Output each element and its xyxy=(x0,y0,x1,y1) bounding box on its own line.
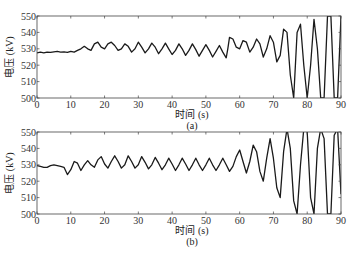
y-tick-label: 540 xyxy=(21,143,36,154)
y-axis-label: 电压 (kV) xyxy=(3,36,16,77)
y-tick-label: 520 xyxy=(21,176,36,187)
y-tick-label: 510 xyxy=(21,192,36,203)
voltage-line xyxy=(37,16,341,98)
voltage-line xyxy=(37,129,341,214)
x-tick-label: 20 xyxy=(100,99,110,110)
x-tick-label: 20 xyxy=(100,215,110,226)
chart-figure: 0102030405060708090500510520530540550时间 … xyxy=(0,0,350,254)
x-tick-label: 80 xyxy=(302,99,312,110)
x-tick-label: 70 xyxy=(268,215,278,226)
plot-frame xyxy=(37,132,341,214)
y-axis-label: 电压 (kV) xyxy=(3,152,16,193)
y-tick-label: 540 xyxy=(21,27,36,38)
x-tick-label: 90 xyxy=(336,215,346,226)
y-tick-label: 530 xyxy=(21,159,36,170)
x-tick-label: 60 xyxy=(235,215,245,226)
y-tick-label: 520 xyxy=(21,60,36,71)
panel-b: 0102030405060708090500510520530540550时间 … xyxy=(3,127,346,249)
y-tick-label: 550 xyxy=(21,11,36,22)
x-tick-label: 60 xyxy=(235,99,245,110)
panel-caption: (b) xyxy=(186,236,198,248)
panel-a: 0102030405060708090500510520530540550时间 … xyxy=(3,11,346,133)
panel-caption: (a) xyxy=(186,120,197,132)
y-tick-label: 530 xyxy=(21,43,36,54)
x-tick-label: 70 xyxy=(268,99,278,110)
x-tick-label: 10 xyxy=(66,99,76,110)
y-tick-label: 500 xyxy=(21,209,36,220)
y-tick-label: 500 xyxy=(21,93,36,104)
x-tick-label: 10 xyxy=(66,215,76,226)
x-tick-label: 90 xyxy=(336,99,346,110)
x-tick-label: 30 xyxy=(133,215,143,226)
x-tick-label: 30 xyxy=(133,99,143,110)
y-tick-label: 550 xyxy=(21,127,36,138)
y-tick-label: 510 xyxy=(21,76,36,87)
x-tick-label: 80 xyxy=(302,215,312,226)
